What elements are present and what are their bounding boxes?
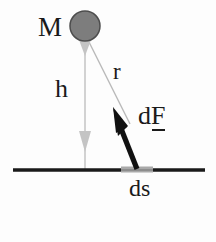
h-arrowhead-upper [79,40,91,56]
height-label: h [55,76,68,102]
physics-diagram: M h r dF ds [0,0,216,242]
force-label: dF [138,103,165,129]
h-arrowhead-lower [79,131,91,152]
diagram-canvas [0,0,216,242]
r-line [89,42,130,124]
force-prefix: d [138,101,151,130]
mass-circle [70,11,100,41]
distance-label: r [113,60,121,83]
force-arrow-shaft [120,126,137,169]
surface-element-label: ds [129,176,150,200]
mass-label: M [38,14,62,41]
force-vector-symbol: F [151,103,165,129]
